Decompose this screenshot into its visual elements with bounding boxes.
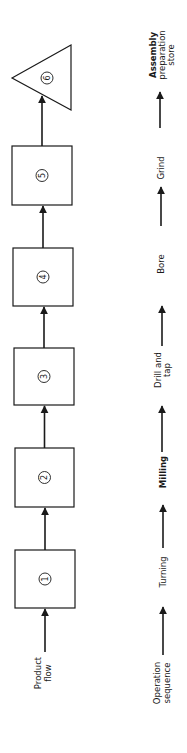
operation-sequence-column: Assembly preparation store Grind Bore Dr… <box>148 30 176 704</box>
label-line: Grind <box>156 156 166 179</box>
step-number: 4 <box>39 274 48 279</box>
operation-bore: Bore <box>156 254 166 274</box>
step-2-box: 2 <box>15 448 74 507</box>
label-line: Product <box>33 656 43 689</box>
step-number: 1 <box>41 576 50 581</box>
operation-assembly-preparation-store: Assembly preparation store <box>148 30 176 80</box>
operation-milling: Milling <box>158 456 168 488</box>
label-line: Turning <box>158 556 168 588</box>
step-number: 6 <box>43 75 52 80</box>
label-line: Milling <box>158 456 168 488</box>
step-number: 5 <box>38 173 47 178</box>
step-1-box: 1 <box>15 550 75 608</box>
operation-drill-and-tap: Drill and tap <box>153 352 172 388</box>
process-flow-diagram: 6 5 4 3 2 <box>0 0 187 753</box>
step-number: 2 <box>40 475 49 480</box>
label-line: store <box>166 44 176 66</box>
label-line: Operation <box>152 662 162 704</box>
step-number: 3 <box>40 374 49 379</box>
step-5-box: 5 <box>12 146 72 205</box>
step-4-box: 4 <box>13 248 73 306</box>
operation-grind: Grind <box>156 156 166 179</box>
product-flow-column: 6 5 4 3 2 <box>12 45 75 689</box>
label-line: sequence <box>162 663 172 704</box>
label-line: flow <box>43 664 53 682</box>
label-line: Bore <box>156 254 166 274</box>
operation-sequence-label: Operation sequence <box>152 662 172 704</box>
product-flow-label: Product flow <box>33 656 53 689</box>
operation-turning: Turning <box>158 556 168 588</box>
step-3-box: 3 <box>14 348 74 405</box>
label-line: tap <box>162 363 172 377</box>
